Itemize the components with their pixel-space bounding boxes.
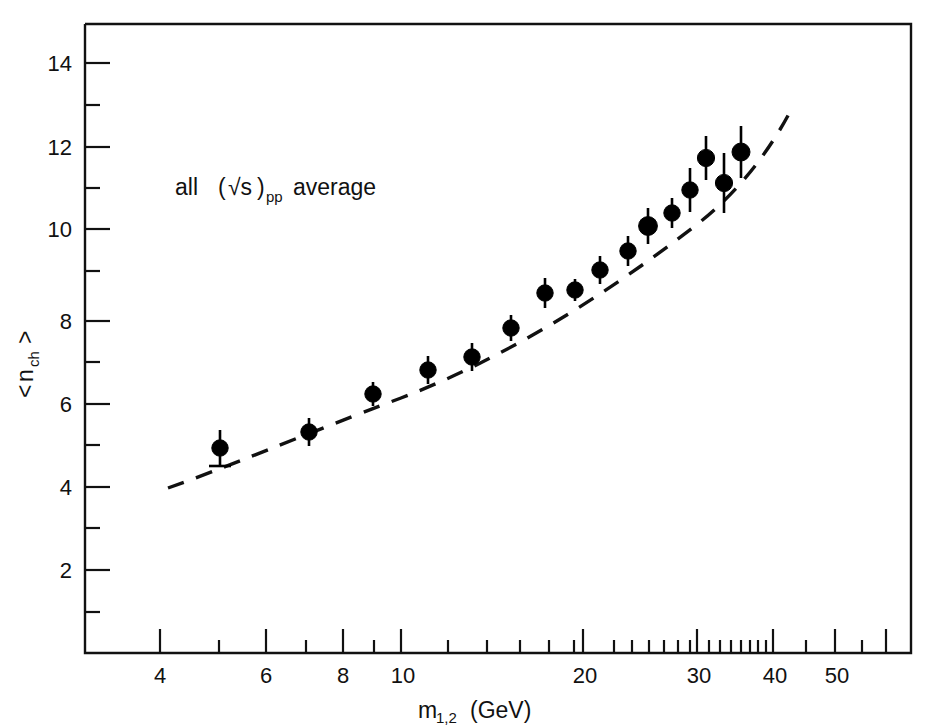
data-point (420, 356, 436, 384)
y-axis-title-subscript: ch (25, 351, 42, 367)
data-point (639, 208, 658, 244)
data-point (503, 315, 519, 341)
annotation-paren-open: ( (218, 174, 226, 200)
x-tick-label: 20 (573, 663, 597, 688)
data-point (592, 256, 608, 284)
x-axis-title-unit: (GeV) (470, 697, 531, 723)
data-point (537, 278, 553, 308)
y-axis-title-open: < (12, 385, 38, 398)
data-point (209, 430, 231, 466)
y-tick-label: 6 (60, 392, 72, 417)
chart-figure: 14 12 10 8 6 4 2 (0, 0, 931, 725)
data-point (682, 168, 698, 212)
data-point (664, 198, 680, 228)
x-tick-label: 4 (154, 663, 166, 688)
data-point (697, 136, 714, 180)
x-axis-ticks (160, 629, 886, 653)
annotation-label: all ( √s ) pp average (175, 174, 376, 205)
x-axis-title-subscript: 1,2 (436, 709, 457, 725)
x-axis-title: m 1,2 (GeV) (418, 697, 531, 725)
annotation-suffix: average (293, 174, 376, 200)
y-tick-labels: 14 12 10 8 6 4 2 (48, 51, 72, 583)
y-axis-title: < n ch > (12, 331, 42, 398)
data-point (732, 126, 750, 178)
x-tick-label: 50 (825, 663, 849, 688)
data-point (715, 153, 732, 213)
y-tick-label: 12 (48, 135, 72, 160)
x-tick-label: 40 (763, 663, 787, 688)
x-tick-labels: 4 6 8 10 20 30 40 50 (154, 663, 849, 688)
x-tick-label: 8 (337, 663, 349, 688)
annotation-paren-close: ) (257, 174, 265, 200)
annotation-prefix: all (175, 174, 198, 200)
fit-curve-dashed (168, 110, 791, 488)
data-series-points (209, 126, 750, 466)
y-axis-ticks (85, 63, 110, 612)
y-tick-label: 10 (48, 217, 72, 242)
x-tick-label: 10 (391, 663, 415, 688)
y-tick-label: 4 (60, 475, 72, 500)
data-point (365, 382, 381, 406)
y-tick-label: 8 (60, 309, 72, 334)
x-axis-title-main: m (418, 697, 437, 723)
data-point (620, 236, 636, 266)
plot-canvas: 14 12 10 8 6 4 2 (0, 0, 931, 725)
data-point (464, 343, 480, 371)
y-axis-title-main: n (12, 369, 38, 382)
data-point (567, 279, 583, 301)
data-point (301, 418, 317, 446)
y-tick-label: 2 (60, 558, 72, 583)
x-tick-label: 30 (687, 663, 711, 688)
annotation-sqrt-s: √s (228, 174, 252, 200)
y-tick-label: 14 (48, 51, 72, 76)
annotation-subscript-pp: pp (266, 188, 283, 205)
y-axis-title-close: > (12, 331, 38, 344)
x-tick-label: 6 (260, 663, 272, 688)
